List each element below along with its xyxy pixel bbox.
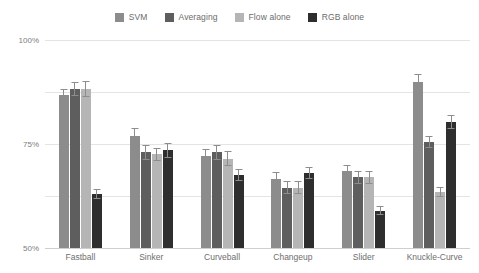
bar[interactable] bbox=[92, 194, 102, 248]
bar-group-bars bbox=[187, 40, 258, 248]
bar[interactable] bbox=[223, 159, 233, 248]
error-bar bbox=[142, 145, 149, 160]
bar[interactable] bbox=[163, 150, 173, 248]
error-bar bbox=[202, 149, 209, 164]
error-bar-cap-top bbox=[437, 187, 444, 188]
error-bar bbox=[415, 74, 422, 89]
error-bar-stem bbox=[276, 172, 277, 187]
error-bar-cap-top bbox=[93, 189, 100, 190]
error-bar-cap-top bbox=[377, 206, 384, 207]
y-axis-tick-label: 50% bbox=[23, 244, 39, 253]
legend-item[interactable]: Flow alone bbox=[235, 13, 291, 22]
x-axis-tick-label: Sinker bbox=[116, 252, 187, 262]
bar-slot bbox=[212, 40, 222, 248]
bar-group bbox=[328, 40, 399, 248]
error-bar-cap-bottom bbox=[213, 159, 220, 160]
bar-group-bars bbox=[257, 40, 328, 248]
error-bar-cap-bottom bbox=[306, 178, 313, 179]
bar[interactable] bbox=[141, 152, 151, 248]
bar-slot bbox=[152, 40, 162, 248]
bar[interactable] bbox=[364, 177, 374, 248]
y-axis-tick-label: 100% bbox=[19, 36, 39, 45]
error-bar-stem bbox=[85, 81, 86, 98]
error-bar bbox=[448, 115, 455, 130]
y-axis-tick-label: 75% bbox=[23, 140, 39, 149]
error-bar-cap-bottom bbox=[426, 147, 433, 148]
bar[interactable] bbox=[304, 173, 314, 248]
bar-group bbox=[116, 40, 187, 248]
bar[interactable] bbox=[424, 142, 434, 248]
bar-slot bbox=[435, 40, 445, 248]
error-bar bbox=[377, 206, 384, 214]
bar[interactable] bbox=[342, 171, 352, 248]
legend-item[interactable]: RGB alone bbox=[308, 13, 364, 22]
error-bar-cap-top bbox=[213, 145, 220, 146]
bar-slot bbox=[424, 40, 434, 248]
bar-slot bbox=[92, 40, 102, 248]
bar[interactable] bbox=[152, 154, 162, 248]
error-bar-cap-bottom bbox=[344, 176, 351, 177]
error-bar-cap-top bbox=[202, 149, 209, 150]
bar[interactable] bbox=[446, 122, 456, 248]
error-bar-cap-bottom bbox=[71, 95, 78, 96]
error-bar-cap-top bbox=[284, 181, 291, 182]
error-bar-cap-bottom bbox=[355, 183, 362, 184]
bar-slot bbox=[413, 40, 423, 248]
error-bar-stem bbox=[216, 145, 217, 160]
bar-slot bbox=[364, 40, 374, 248]
error-bar-cap-bottom bbox=[202, 163, 209, 164]
error-bar-cap-bottom bbox=[284, 193, 291, 194]
error-bar-cap-bottom bbox=[273, 186, 280, 187]
bar[interactable] bbox=[353, 177, 363, 248]
error-bar-cap-top bbox=[344, 165, 351, 166]
error-bar-stem bbox=[205, 149, 206, 164]
bar-slot bbox=[70, 40, 80, 248]
bar-group-bars bbox=[399, 40, 470, 248]
error-bar bbox=[437, 187, 444, 197]
error-bar-cap-bottom bbox=[415, 88, 422, 89]
chart-legend: SVMAveragingFlow aloneRGB alone bbox=[0, 13, 479, 22]
error-bar-stem bbox=[167, 143, 168, 158]
error-bar-cap-bottom bbox=[131, 142, 138, 143]
error-bar-cap-top bbox=[60, 89, 67, 90]
bar-slot bbox=[375, 40, 385, 248]
bar-slot bbox=[163, 40, 173, 248]
bar[interactable] bbox=[70, 89, 80, 248]
legend-swatch-icon bbox=[308, 13, 317, 22]
error-bar-stem bbox=[74, 82, 75, 97]
legend-item[interactable]: SVM bbox=[115, 13, 148, 22]
bar-slot bbox=[59, 40, 69, 248]
x-axis-labels: FastballSinkerCurveballChangeupSliderKnu… bbox=[45, 252, 470, 262]
bar[interactable] bbox=[375, 211, 385, 248]
bar[interactable] bbox=[59, 95, 69, 248]
bar-slot bbox=[201, 40, 211, 248]
error-bar-cap-bottom bbox=[93, 198, 100, 199]
error-bar-cap-top bbox=[224, 151, 231, 152]
error-bar bbox=[426, 136, 433, 148]
bar[interactable] bbox=[130, 136, 140, 248]
x-axis-tick-label: Slider bbox=[328, 252, 399, 262]
error-bar bbox=[284, 181, 291, 193]
bar[interactable] bbox=[234, 175, 244, 248]
bar[interactable] bbox=[282, 188, 292, 248]
bar[interactable] bbox=[201, 156, 211, 248]
bar[interactable] bbox=[435, 192, 445, 248]
error-bar-cap-top bbox=[448, 115, 455, 116]
bar[interactable] bbox=[293, 188, 303, 248]
error-bar-cap-bottom bbox=[60, 100, 67, 101]
x-axis-baseline: 0% bbox=[45, 248, 470, 249]
error-bar bbox=[131, 128, 138, 143]
legend-item[interactable]: Averaging bbox=[165, 13, 218, 22]
bar[interactable] bbox=[271, 179, 281, 248]
bar[interactable] bbox=[81, 89, 91, 248]
bar[interactable] bbox=[413, 82, 423, 248]
bar[interactable] bbox=[212, 152, 222, 248]
error-bar bbox=[71, 82, 78, 97]
x-axis-tick-label: Knuckle-Curve bbox=[399, 252, 470, 262]
bar-group-bars bbox=[328, 40, 399, 248]
legend-item-label: Flow alone bbox=[249, 13, 291, 22]
bar-group bbox=[399, 40, 470, 248]
error-bar-cap-bottom bbox=[437, 196, 444, 197]
error-bar-cap-bottom bbox=[295, 193, 302, 194]
x-axis-tick-label: Fastball bbox=[45, 252, 116, 262]
